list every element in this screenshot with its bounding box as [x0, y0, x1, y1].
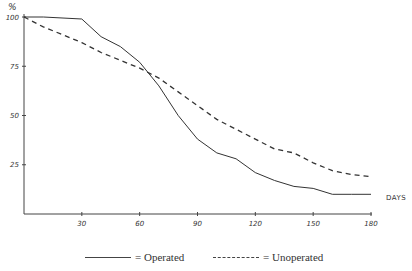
axes: [24, 14, 372, 214]
legend-item-unoperated: = Unoperated: [213, 251, 323, 263]
legend-label-unoperated: = Unoperated: [263, 251, 323, 263]
x-tick-label: 150: [306, 220, 320, 228]
legend-item-operated: = Operated: [85, 251, 184, 263]
x-axis-title: DAYS: [386, 194, 406, 202]
x-tick-label: 90: [193, 220, 202, 228]
series-unoperated-line: [24, 17, 371, 177]
y-unit-label: %: [8, 2, 17, 12]
y-tick-label: 75: [10, 63, 19, 71]
series-lines: [24, 17, 371, 194]
dashed-line-swatch: [213, 257, 259, 258]
solid-line-swatch: [85, 257, 131, 258]
x-tick-label: 60: [135, 220, 144, 228]
x-tick-label: 180: [364, 220, 378, 228]
legend-label-operated: = Operated: [135, 251, 184, 263]
y-tick-label: 100: [6, 14, 20, 22]
survival-chart: 255075100 306090120150180 % DAYS: [0, 0, 412, 250]
series-operated-line: [24, 17, 371, 194]
y-ticks: 255075100: [6, 14, 26, 170]
x-tick-label: 30: [77, 220, 86, 228]
legend: = Operated = Unoperated: [0, 251, 412, 267]
y-tick-label: 50: [10, 112, 19, 120]
y-tick-label: 25: [10, 161, 19, 169]
x-tick-label: 120: [249, 220, 263, 228]
